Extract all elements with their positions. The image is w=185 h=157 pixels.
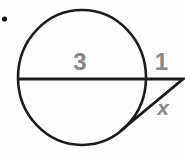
tangent-length-label: x <box>156 96 170 119</box>
chord-length-label: 3 <box>73 48 86 75</box>
geometry-diagram: 3 1 x <box>0 0 185 157</box>
external-segment-label: 1 <box>155 48 168 75</box>
diagram-svg: 3 1 x <box>0 0 185 157</box>
list-bullet-icon <box>2 16 7 21</box>
